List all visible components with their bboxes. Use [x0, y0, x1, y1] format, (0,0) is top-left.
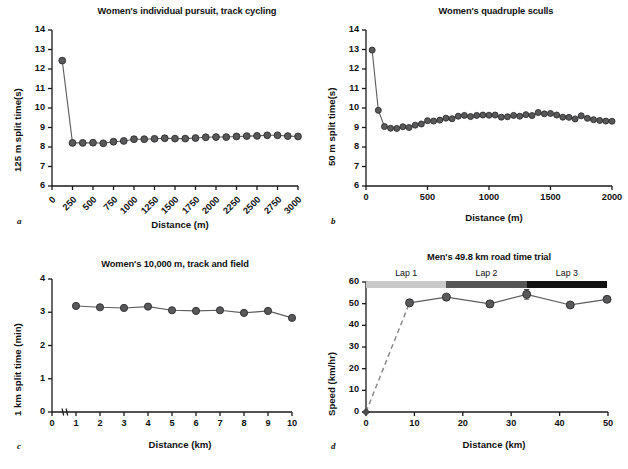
- panel-b-xlabel: Distance (m): [369, 212, 619, 223]
- xtick-label: 0: [348, 418, 384, 428]
- ytick-label: 13: [0, 44, 45, 54]
- panel-d-letter: d: [331, 441, 336, 451]
- xtick-label: 10: [396, 418, 432, 428]
- ytick-label: 10: [0, 102, 45, 112]
- panel-d-title: Men's 49.8 km road time trial: [364, 252, 614, 262]
- ytick-label: 1: [0, 373, 45, 383]
- ytick-label: 40: [314, 319, 359, 329]
- ytick-label: 30: [314, 341, 359, 351]
- ytick-label: 2: [0, 340, 45, 350]
- ytick-label: 8: [0, 141, 45, 151]
- lap-bar-segment: [446, 281, 526, 288]
- xtick-label: 40: [542, 418, 578, 428]
- lap-bar-segment: [527, 281, 607, 288]
- ytick-label: 0: [0, 406, 45, 416]
- ytick-label: 6: [314, 180, 359, 190]
- panel-b-title: Women's quadruple sculls: [371, 6, 621, 16]
- ytick-label: 20: [314, 363, 359, 373]
- ytick-label: 4: [0, 273, 45, 283]
- ytick-label: 14: [0, 24, 45, 34]
- ytick-label: 11: [0, 83, 45, 93]
- panel-a: Women's individual pursuit, track cyclin…: [0, 0, 314, 234]
- panel-c-letter: c: [17, 441, 21, 451]
- panel-c: Women's 10,000 m, track and field c 1 km…: [0, 234, 314, 469]
- ytick-label: 3: [0, 306, 45, 316]
- lap-label: Lap 3: [507, 268, 627, 278]
- ytick-label: 7: [0, 161, 45, 171]
- ytick-label: 7: [314, 161, 359, 171]
- ytick-label: 13: [314, 44, 359, 54]
- figure-panel-grid: Women's individual pursuit, track cyclin…: [0, 0, 628, 469]
- ytick-label: 11: [314, 83, 359, 93]
- ytick-label: 10: [314, 384, 359, 394]
- ytick-label: 9: [314, 122, 359, 132]
- ytick-label: 14: [314, 24, 359, 34]
- xtick-label: 1000: [471, 192, 507, 202]
- ytick-label: 8: [314, 141, 359, 151]
- xtick-label: 10: [274, 418, 310, 428]
- panel-c-xlabel: Distance (km): [55, 439, 305, 450]
- xtick-label: 20: [445, 418, 481, 428]
- xtick-label: 500: [410, 192, 446, 202]
- panel-d: Men's 49.8 km road time trial d Speed (k…: [314, 234, 628, 469]
- lap-bar-segment: [366, 281, 446, 288]
- ytick-label: 0: [314, 406, 359, 416]
- panel-a-letter: a: [17, 216, 22, 226]
- xtick-label: 0: [348, 192, 384, 202]
- ytick-label: 60: [314, 276, 359, 286]
- ytick-label: 9: [0, 122, 45, 132]
- ytick-label: 6: [0, 180, 45, 190]
- xtick-label: 50: [590, 418, 626, 428]
- panel-b-letter: b: [331, 216, 336, 226]
- panel-a-title: Women's individual pursuit, track cyclin…: [57, 6, 317, 16]
- xtick-label: 30: [493, 418, 529, 428]
- panel-b: Women's quadruple sculls b 50 m split ti…: [314, 0, 628, 234]
- ytick-label: 10: [314, 102, 359, 112]
- panel-c-title: Women's 10,000 m, track and field: [50, 259, 300, 269]
- ytick-label: 12: [0, 63, 45, 73]
- ytick-label: 12: [314, 63, 359, 73]
- ytick-label: 50: [314, 298, 359, 308]
- xtick-label: 2000: [594, 192, 628, 202]
- panel-c-ylabel: 1 km split time (min): [12, 323, 23, 416]
- panel-d-xlabel: Distance (km): [369, 439, 619, 450]
- panel-c-plot: [0, 234, 314, 469]
- xtick-label: 1500: [533, 192, 569, 202]
